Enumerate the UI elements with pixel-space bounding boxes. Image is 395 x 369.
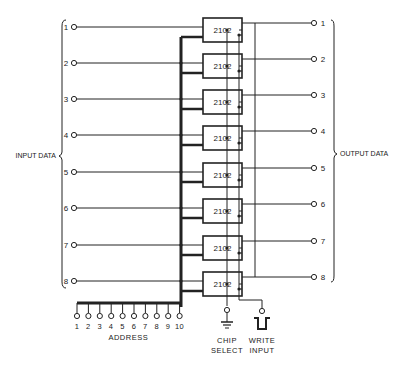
input-data-label: INPUT DATA xyxy=(16,152,57,159)
address-pin-number: 3 xyxy=(97,322,102,331)
address-terminal xyxy=(97,313,102,318)
junction-dot xyxy=(179,61,182,64)
input-terminal xyxy=(71,278,76,283)
address-pin-number: 8 xyxy=(154,322,159,331)
input-pin-number: 2 xyxy=(64,59,69,68)
write-input-label: INPUT xyxy=(250,346,275,355)
address-terminal xyxy=(120,313,125,318)
chip-label: 2102 xyxy=(214,207,232,216)
junction-dot xyxy=(179,279,182,282)
output-pin-number: 5 xyxy=(321,164,326,173)
address-pin-number: 4 xyxy=(109,322,114,331)
output-pin-number: 8 xyxy=(321,273,326,282)
output-pin-number: 7 xyxy=(321,237,326,246)
output-terminal xyxy=(311,92,316,97)
chip-label: 2102 xyxy=(214,26,232,35)
input-terminal xyxy=(71,132,76,137)
chip-label: 2102 xyxy=(214,98,232,107)
address-terminal xyxy=(109,313,114,318)
output-pin-number: 3 xyxy=(321,91,326,100)
input-terminal xyxy=(71,60,76,65)
junction-dot xyxy=(179,97,182,100)
output-pin-number: 1 xyxy=(321,19,326,28)
output-terminal xyxy=(311,128,316,133)
address-pin-number: 6 xyxy=(132,322,137,331)
labels: 2102112102222102332102442102552102662102… xyxy=(16,19,389,355)
memory-array-diagram: 2102112102222102332102442102552102662102… xyxy=(0,0,395,369)
output-terminal xyxy=(311,165,316,170)
input-pin-number: 3 xyxy=(64,95,69,104)
output-terminal xyxy=(311,20,316,25)
input-terminal xyxy=(71,169,76,174)
address-terminal xyxy=(143,313,148,318)
output-terminal xyxy=(311,274,316,279)
chip-select-label: SELECT xyxy=(211,346,243,355)
address-terminal xyxy=(154,313,159,318)
address-label: ADDRESS xyxy=(108,333,148,342)
chip-select-label: CHIP xyxy=(217,336,237,345)
chip-label: 2102 xyxy=(214,134,232,143)
address-terminal xyxy=(166,313,171,318)
input-terminal xyxy=(71,205,76,210)
output-terminal xyxy=(311,56,316,61)
input-pin-number: 8 xyxy=(64,277,69,286)
input-terminal xyxy=(71,24,76,29)
address-pin-number: 9 xyxy=(166,322,171,331)
address-pin-number: 5 xyxy=(120,322,125,331)
chip-label: 2102 xyxy=(214,244,232,253)
chip-group xyxy=(203,18,242,296)
junction-dot xyxy=(179,243,182,246)
address-terminal xyxy=(131,313,136,318)
input-pin-number: 6 xyxy=(64,204,69,213)
junction-dot xyxy=(179,206,182,209)
write-input-label: WRITE xyxy=(249,336,276,345)
chip-select-terminal xyxy=(224,307,229,312)
address-pin-number: 7 xyxy=(143,322,148,331)
junction-dot xyxy=(179,170,182,173)
address-terminal xyxy=(177,313,182,318)
output-pin-number: 2 xyxy=(321,55,326,64)
chip-label: 2102 xyxy=(214,62,232,71)
output-brace xyxy=(331,20,337,282)
address-pin-number: 2 xyxy=(86,322,91,331)
input-pin-number: 7 xyxy=(64,241,69,250)
input-pin-number: 5 xyxy=(64,168,69,177)
address-pin-number: 10 xyxy=(175,322,184,331)
input-terminal xyxy=(71,96,76,101)
address-terminal xyxy=(74,313,79,318)
output-terminal xyxy=(311,201,316,206)
address-terminal xyxy=(86,313,91,318)
input-pin-number: 4 xyxy=(64,131,69,140)
pulse-symbol xyxy=(254,318,270,329)
output-pin-number: 4 xyxy=(321,127,326,136)
input-terminal xyxy=(71,242,76,247)
input-pin-number: 1 xyxy=(64,23,69,32)
wiring xyxy=(59,20,337,329)
output-terminal xyxy=(311,238,316,243)
chip-label: 2102 xyxy=(214,280,232,289)
junction-dot xyxy=(179,133,182,136)
output-data-label: OUTPUT DATA xyxy=(340,150,389,157)
write-input-terminal xyxy=(259,308,264,313)
address-pin-number: 1 xyxy=(75,322,80,331)
chip-label: 2102 xyxy=(214,171,232,180)
output-pin-number: 6 xyxy=(321,200,326,209)
